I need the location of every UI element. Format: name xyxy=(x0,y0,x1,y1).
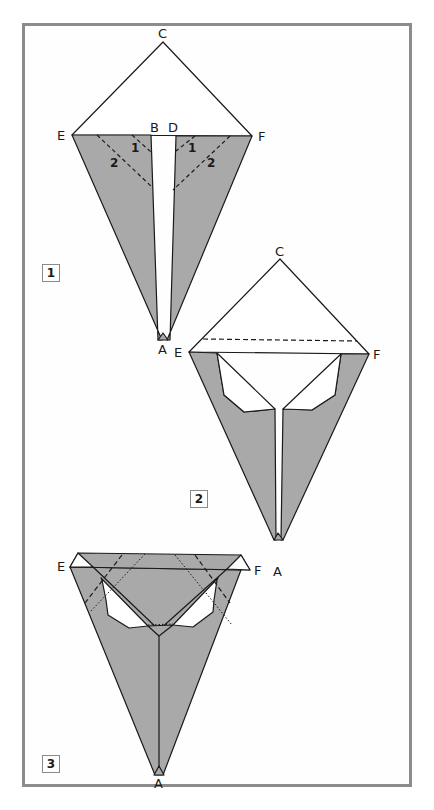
step-number-3: 3 xyxy=(42,755,60,773)
step-3-figure xyxy=(70,553,250,775)
label-A: A xyxy=(154,776,163,791)
step-number-2: 2 xyxy=(190,490,208,508)
label-E: E xyxy=(57,128,65,143)
fold-number: 2 xyxy=(110,156,118,170)
label-E: E xyxy=(174,345,182,360)
step-number-1: 1 xyxy=(42,264,60,282)
step-1-top-triangle xyxy=(72,42,252,136)
fold-number: 2 xyxy=(207,156,215,170)
origami-diagram: C E B D F A 1 1 2 2 C E F A xyxy=(0,0,434,810)
label-F: F xyxy=(254,563,261,578)
label-F: F xyxy=(258,129,265,144)
step-1-figure xyxy=(72,42,252,340)
label-D: D xyxy=(168,120,178,135)
label-C: C xyxy=(275,244,284,259)
step-3-body xyxy=(70,567,241,775)
label-C: C xyxy=(158,26,167,41)
label-E: E xyxy=(57,559,65,574)
label-A: A xyxy=(273,564,282,579)
label-F: F xyxy=(373,347,380,362)
step-2-figure xyxy=(189,259,369,540)
fold-number: 1 xyxy=(188,141,196,155)
step-3-top-band xyxy=(70,553,250,570)
label-A: A xyxy=(158,342,167,357)
label-B: B xyxy=(150,120,159,135)
fold-number: 1 xyxy=(131,141,139,155)
